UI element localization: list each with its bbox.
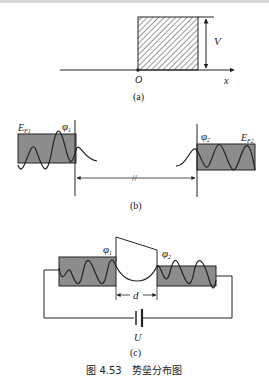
origin-label: O — [135, 74, 142, 85]
potential-barrier-figure: V O x (a) // EF1 φ1 φ2 EF2 (b) φ1 φ2 d — [0, 0, 269, 381]
x-axis-label: x — [223, 75, 229, 86]
panel-b: // EF1 φ1 φ2 EF2 (b) — [17, 120, 255, 212]
panel-a: V O x (a) — [60, 17, 234, 103]
phi1-label: φ1 — [103, 243, 112, 256]
right-work-label: φ2 — [201, 130, 210, 143]
top-text-fragment — [0, 0, 269, 3]
height-label: V — [214, 35, 222, 47]
right-fermi-label: EF2 — [240, 132, 254, 144]
panel-c: φ1 φ2 d U (c) — [44, 237, 232, 359]
gap-mark: // — [132, 173, 138, 183]
panel-c-label: (c) — [130, 347, 141, 359]
figure-caption: 图 4.53 势垒分布图 — [86, 364, 181, 376]
panel-a-label: (a) — [133, 91, 144, 103]
right-electrode — [157, 266, 216, 286]
barrier-trapezoid — [116, 237, 157, 266]
barrier-rect — [138, 17, 198, 70]
voltage-label: U — [134, 332, 142, 343]
left-work-label: φ1 — [62, 120, 71, 133]
origin-dot — [136, 68, 140, 72]
left-fermi-label: EF1 — [17, 122, 31, 134]
panel-b-label: (b) — [130, 200, 142, 212]
gap-label: d — [133, 289, 139, 301]
phi2-label: φ2 — [162, 247, 171, 260]
